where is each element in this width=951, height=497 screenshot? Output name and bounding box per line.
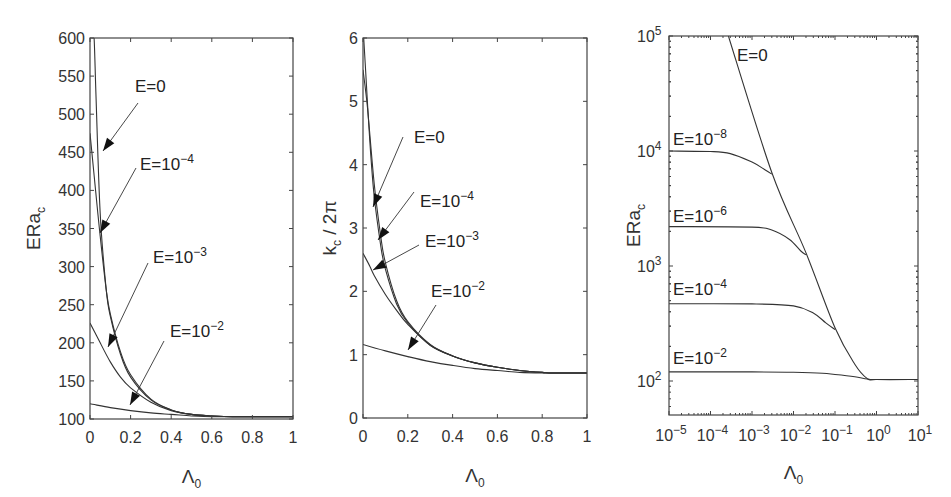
arrowhead-icon — [103, 138, 114, 151]
y-tick-label: 105 — [637, 24, 662, 45]
y-tick-label: 2 — [349, 283, 358, 300]
y-tick-label: 104 — [637, 139, 662, 160]
y-tick-label: 100 — [58, 411, 85, 428]
x-axis-ticks: 00.20.40.60.81 — [86, 38, 298, 446]
annotations: E=0E=10−8E=10−6E=10−4E=10−2 — [673, 46, 768, 368]
y-tick-label: 450 — [58, 144, 85, 161]
x-tick-label: 10−4 — [697, 423, 729, 444]
y-tick-label: 200 — [58, 335, 85, 352]
x-tick-label: 0.6 — [486, 428, 508, 445]
y-tick-label: 102 — [637, 369, 662, 390]
annotation-label: E=10−2 — [431, 279, 485, 301]
y-tick-label: 550 — [58, 68, 85, 85]
y-tick-label: 300 — [58, 259, 85, 276]
y-axis-label: ERac — [23, 207, 48, 250]
y-tick-label: 350 — [58, 221, 85, 238]
panel-right-chart: 10−510−410−310−210−1100101102103104105Λ0… — [623, 24, 933, 487]
series-e-10-2 — [363, 345, 587, 374]
x-tick-label: 10−1 — [821, 423, 853, 444]
panel-left-chart: 00.20.40.60.8110015020025030035040045050… — [23, 30, 298, 491]
y-tick-label: 150 — [58, 373, 85, 390]
y-tick-label: 5 — [349, 93, 358, 110]
curves — [363, 38, 587, 373]
x-tick-label: 0 — [359, 428, 368, 445]
y-tick-label: 4 — [349, 157, 358, 174]
annotation-label: E=10−8 — [673, 127, 727, 149]
annotation-label: E=0 — [414, 128, 445, 147]
x-tick-label: 0.2 — [397, 428, 419, 445]
x-tick-label: 100 — [866, 423, 891, 444]
y-tick-label: 1 — [349, 347, 358, 364]
series-e-10-3 — [363, 253, 587, 373]
x-axis-ticks: 10−510−410−310−210−1100101 — [655, 36, 932, 444]
axes-frame — [363, 38, 587, 418]
arrowhead-icon — [408, 337, 419, 350]
series-e-10-2 — [669, 372, 918, 380]
series-e-10-4 — [669, 304, 835, 330]
panel-middle-chart: 00.20.40.60.810123456Λ0kc / 2πE=0E=10−4E… — [319, 30, 592, 490]
y-tick-label: 600 — [58, 30, 85, 47]
axes-frame — [90, 38, 293, 419]
x-tick-label: 1 — [583, 428, 592, 445]
x-tick-label: 10−3 — [738, 423, 770, 444]
annotation-label: E=10−3 — [153, 245, 207, 267]
annotation-label: E=0 — [135, 77, 166, 96]
x-tick-label: 0.6 — [201, 429, 223, 446]
arrowhead-icon — [373, 193, 382, 207]
x-axis-label: Λ0 — [784, 462, 804, 487]
y-axis-label: kc / 2π — [319, 200, 344, 255]
y-axis-label: ERac — [623, 204, 648, 247]
y-tick-label: 250 — [58, 297, 85, 314]
x-tick-label: 0.8 — [241, 429, 263, 446]
x-tick-label: 0.8 — [531, 428, 553, 445]
y-tick-label: 500 — [58, 106, 85, 123]
series-e-0 — [728, 36, 918, 380]
x-tick-label: 10−2 — [780, 423, 812, 444]
x-tick-label: 1 — [289, 429, 298, 446]
y-tick-label: 6 — [349, 30, 358, 47]
series-e-0 — [364, 38, 587, 373]
annotation-arrow — [108, 263, 148, 347]
annotation-label: E=10−2 — [673, 346, 727, 368]
x-tick-label: 0.4 — [160, 429, 182, 446]
arrowhead-icon — [100, 219, 110, 233]
curves — [90, 33, 293, 416]
x-tick-label: 10−5 — [655, 423, 687, 444]
figure: 00.20.40.60.8110015020025030035040045050… — [0, 0, 951, 497]
annotation-label: E=10−4 — [140, 152, 194, 174]
annotation-label: E=10−2 — [170, 319, 224, 341]
x-tick-label: 0.4 — [441, 428, 463, 445]
x-tick-label: 0 — [86, 429, 95, 446]
annotations: E=0E=10−4E=10−3E=10−2 — [100, 77, 224, 405]
y-tick-label: 3 — [349, 220, 358, 237]
x-axis-label: Λ0 — [182, 466, 202, 491]
series-e-10-8 — [669, 151, 772, 174]
annotation-label: E=10−6 — [673, 204, 727, 226]
series-e-0 — [92, 33, 293, 416]
x-axis-label: Λ0 — [465, 465, 485, 490]
series-e-10-4 — [90, 133, 293, 416]
y-tick-label: 103 — [637, 254, 662, 275]
annotation-label: E=10−3 — [425, 229, 479, 251]
y-tick-label: 400 — [58, 182, 85, 199]
x-tick-label: 0.2 — [119, 429, 141, 446]
annotation-label: E=10−4 — [420, 189, 474, 211]
series-e-10-4 — [363, 70, 587, 373]
y-axis-ticks: 100150200250300350400450500550600 — [58, 30, 293, 428]
series-e-10-6 — [669, 227, 806, 255]
y-tick-label: 0 — [349, 410, 358, 427]
annotation-label: E=10−4 — [673, 277, 727, 299]
annotation-label: E=0 — [737, 46, 768, 65]
x-tick-label: 101 — [908, 423, 933, 444]
annotations: E=0E=10−4E=10−3E=10−2 — [373, 128, 485, 350]
